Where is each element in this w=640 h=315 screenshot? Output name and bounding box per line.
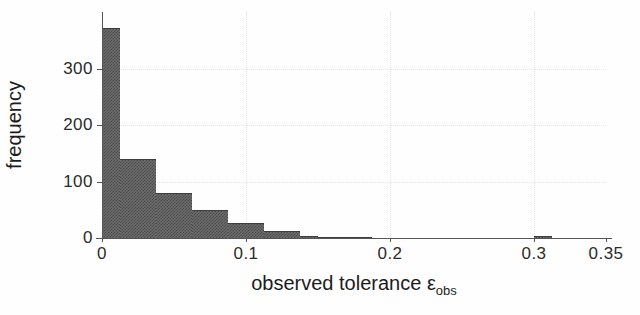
histogram-bar <box>228 223 246 238</box>
histogram-bar <box>102 28 120 238</box>
histogram-bar <box>264 231 282 238</box>
y-axis-tick-label: 0 <box>83 228 93 248</box>
y-axis-tick <box>97 69 102 70</box>
x-axis-tick-label: 0.2 <box>377 244 402 264</box>
x-axis-title-subscript: obs <box>436 283 457 298</box>
x-axis-tick-label: 0.35 <box>588 244 623 264</box>
x-axis-title-text: observed tolerance ε <box>251 272 436 294</box>
y-axis-line <box>102 12 103 238</box>
x-axis-tick <box>246 238 247 242</box>
x-axis-tick <box>102 238 103 242</box>
x-axis-title: observed tolerance εobs <box>102 272 606 298</box>
histogram-bar <box>156 193 174 238</box>
histogram-bars <box>102 12 606 238</box>
histogram-figure: 00.10.20.30.35 0100200300 observed toler… <box>0 0 640 315</box>
y-axis-tick <box>97 238 102 239</box>
x-axis-tick <box>534 238 535 242</box>
histogram-bar <box>282 231 300 238</box>
x-axis-tick <box>606 238 607 242</box>
histogram-bar <box>192 210 210 238</box>
y-axis-tick-label: 300 <box>63 59 93 79</box>
histogram-bar <box>174 193 192 238</box>
y-axis-tick-label: 200 <box>63 115 93 135</box>
y-axis-tick-label: 100 <box>63 172 93 192</box>
y-axis-title: frequency <box>3 81 26 169</box>
x-axis-tick-label: 0.1 <box>233 244 258 264</box>
y-axis-tick <box>97 125 102 126</box>
histogram-bar <box>138 159 156 238</box>
histogram-bar <box>246 223 264 238</box>
x-axis-tick <box>390 238 391 242</box>
x-axis-tick-label: 0 <box>97 244 107 264</box>
histogram-bar <box>120 159 138 238</box>
plot-area <box>102 12 606 238</box>
y-axis-tick <box>97 182 102 183</box>
x-axis-tick-label: 0.3 <box>521 244 546 264</box>
histogram-bar <box>210 210 228 238</box>
